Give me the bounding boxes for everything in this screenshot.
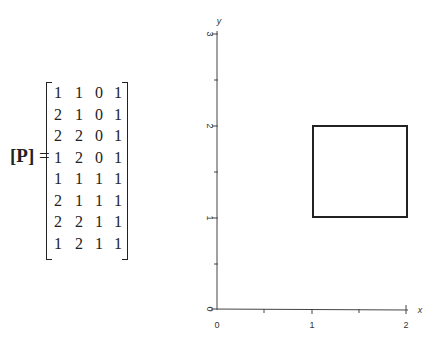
matrix-cell: 2: [48, 213, 68, 231]
matrix-cell: 2: [69, 127, 89, 145]
plot-canvas: 3 2 1 0 0 1 2 y x: [195, 0, 436, 343]
x-tick-1: 1: [309, 320, 314, 330]
matrix-cell: 2: [48, 192, 68, 210]
matrix-body: 11012101220112011111211122111211: [46, 82, 128, 258]
matrix-row: 2111: [46, 192, 128, 214]
matrix-cell: 1: [48, 149, 68, 167]
matrix-row: 2201: [46, 127, 128, 149]
x-axis: [211, 309, 408, 310]
matrix-cell: 1: [89, 192, 109, 210]
matrix-cell: 0: [89, 149, 109, 167]
matrix-cell: 1: [69, 170, 89, 188]
matrix-cell: 1: [108, 235, 128, 253]
matrix-cell: 1: [108, 213, 128, 231]
x-tick-2: 2: [403, 320, 408, 330]
matrix-cell: 1: [108, 127, 128, 145]
matrix-cell: 1: [108, 106, 128, 124]
matrix-cell: 1: [108, 170, 128, 188]
matrix-cell: 1: [69, 192, 89, 210]
unit-square: [313, 126, 407, 217]
y-tick-2: 2: [205, 123, 215, 128]
matrix-cell: 1: [89, 235, 109, 253]
y-tick-1: 1: [205, 215, 215, 220]
matrix-cell: 1: [108, 149, 128, 167]
matrix-row: 1111: [46, 170, 128, 192]
y-tick-3: 3: [205, 31, 215, 36]
matrix-cell: 1: [69, 84, 89, 102]
matrix-cell: 0: [89, 127, 109, 145]
matrix-cell: 1: [108, 192, 128, 210]
matrix-cell: 1: [89, 213, 109, 231]
square-plot: 3 2 1 0 0 1 2 y x: [195, 0, 436, 343]
matrix-symbol: [P] =: [10, 145, 50, 167]
y-axis-label: y: [216, 16, 222, 26]
matrix-row: 1101: [46, 84, 128, 106]
matrix-cell: 1: [48, 84, 68, 102]
y-tick-0: 0: [205, 306, 215, 311]
matrix-cell: 2: [69, 213, 89, 231]
matrix-row: 2211: [46, 213, 128, 235]
matrix-cell: 0: [89, 84, 109, 102]
matrix-cell: 2: [69, 235, 89, 253]
matrix-row: 1211: [46, 235, 128, 257]
matrix-cell: 1: [48, 235, 68, 253]
matrix-cell: 2: [69, 149, 89, 167]
matrix-cell: 1: [108, 84, 128, 102]
matrix-cell: 0: [89, 106, 109, 124]
matrix-cell: 1: [89, 170, 109, 188]
matrix-row: 1201: [46, 149, 128, 171]
x-axis-label: x: [417, 305, 423, 315]
x-tick-0: 0: [214, 320, 219, 330]
matrix-cell: 1: [69, 106, 89, 124]
matrix-cell: 1: [48, 170, 68, 188]
matrix-cell: 2: [48, 106, 68, 124]
matrix-cell: 2: [48, 127, 68, 145]
position-matrix-equation: [P] = 11012101220112011111211122111211: [0, 0, 200, 343]
matrix-row: 2101: [46, 106, 128, 128]
